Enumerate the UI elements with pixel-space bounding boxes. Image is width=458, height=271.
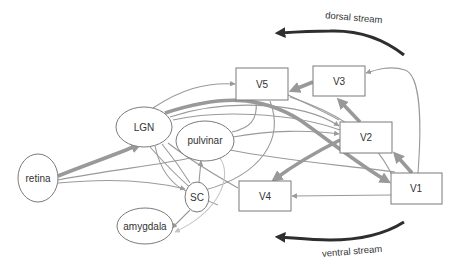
ventral-stream-arrow [280, 222, 404, 240]
edge-v1-v2 [396, 155, 412, 173]
node-v3: V3 [313, 66, 365, 96]
node-sc-label: SC [190, 192, 204, 203]
edge-v1-v3 [366, 68, 420, 173]
node-v4-label: V4 [259, 191, 272, 202]
node-v1: V1 [391, 173, 442, 204]
edge-v2-v4 [275, 140, 340, 179]
node-lgn: LGN [116, 107, 172, 147]
node-sc: SC [185, 182, 209, 212]
edge-v3-v5 [293, 82, 313, 90]
node-v3-label: V3 [333, 76, 346, 87]
dorsal-stream-arrow [280, 31, 404, 55]
node-amygdala: amygdala [117, 208, 173, 244]
node-retina: retina [18, 154, 58, 202]
visual-pathway-diagram: dorsal stream ventral stream [0, 0, 458, 271]
node-v2-label: V2 [360, 132, 373, 143]
node-amygdala-label: amygdala [123, 221, 167, 232]
node-v4: V4 [239, 181, 291, 211]
node-v2: V2 [340, 122, 392, 153]
edge-retina-sc [58, 180, 185, 189]
node-v5: V5 [236, 68, 288, 100]
dorsal-stream: dorsal stream [280, 9, 404, 55]
edge-sc-pulvinar [199, 161, 201, 182]
edge-retina-lgn [58, 145, 138, 176]
ventral-stream: ventral stream [280, 222, 404, 259]
node-pulvinar-label: pulvinar [187, 135, 223, 146]
node-lgn-label: LGN [134, 122, 155, 133]
edge-v2-v3 [340, 101, 360, 122]
node-retina-label: retina [25, 173, 50, 184]
node-pulvinar: pulvinar [176, 121, 234, 161]
node-v1-label: V1 [410, 183, 423, 194]
ventral-stream-label: ventral stream [322, 243, 383, 259]
node-v5-label: V5 [256, 79, 269, 90]
dorsal-stream-label: dorsal stream [325, 9, 383, 25]
edge-v1-v4 [292, 195, 391, 196]
